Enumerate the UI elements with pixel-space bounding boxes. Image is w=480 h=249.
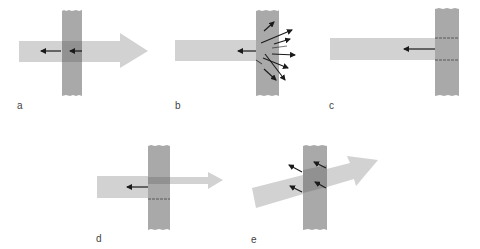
- overlap-region: [148, 177, 170, 184]
- incident-beam-arrow: [19, 33, 148, 68]
- transmitted-beam-arrow: [170, 172, 223, 189]
- panel-b: [175, 10, 295, 96]
- panel-label-c: c: [329, 100, 334, 111]
- diagram-canvas: [0, 0, 480, 249]
- panel-label-d: d: [96, 233, 102, 244]
- panel-label-b: b: [175, 100, 181, 111]
- panel-e: [252, 145, 378, 230]
- panel-c: [330, 8, 459, 96]
- medium-slab: [435, 8, 459, 96]
- panel-a: [19, 10, 148, 96]
- medium-slab: [148, 145, 170, 230]
- panel-label-e: e: [251, 234, 257, 245]
- panel-d: [97, 145, 223, 230]
- panel-label-a: a: [17, 100, 23, 111]
- medium-slab: [256, 10, 279, 96]
